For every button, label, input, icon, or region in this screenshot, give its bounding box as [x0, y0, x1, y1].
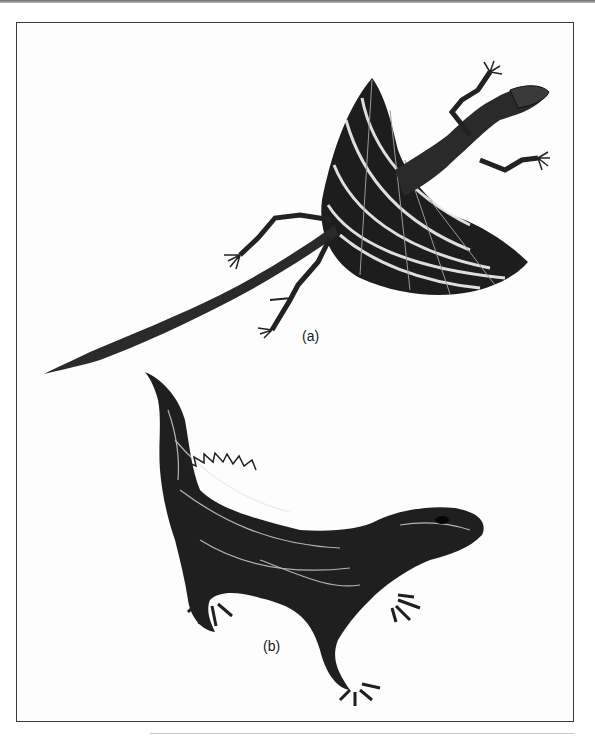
- panel-label-b: (b): [263, 638, 280, 654]
- tuatara-illustration: [145, 372, 484, 706]
- flying-lizard-illustration: [44, 61, 550, 374]
- page-bottom-rule: [150, 733, 575, 734]
- figure-illustrations: [0, 0, 595, 739]
- panel-label-a: (a): [302, 328, 319, 344]
